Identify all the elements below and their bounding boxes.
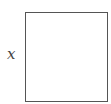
empty-box <box>25 12 108 102</box>
variable-label: x <box>7 45 15 63</box>
